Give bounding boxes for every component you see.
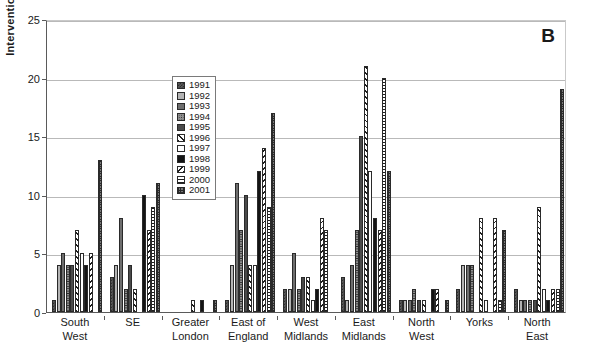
legend-swatch-icon — [177, 145, 185, 153]
bar-1997 — [311, 300, 315, 312]
bar-2001 — [98, 160, 102, 312]
bar-1993 — [523, 300, 527, 312]
bar-1999 — [378, 230, 382, 312]
x-axis-category-label: SE — [125, 316, 140, 330]
bar-1997 — [484, 300, 488, 312]
x-axis-category-label: North West — [408, 316, 435, 343]
bar-2001 — [560, 89, 564, 312]
bar-1996 — [75, 230, 79, 312]
bar-1996 — [133, 289, 137, 312]
bar-1992 — [288, 289, 292, 312]
bar-2001 — [271, 113, 275, 312]
bar-1994 — [528, 300, 532, 312]
y-axis-tick-label: 25 — [0, 14, 40, 26]
bar-1995 — [70, 265, 74, 312]
bar-1991 — [456, 289, 460, 312]
bar-group — [451, 21, 514, 312]
bar-2001 — [156, 183, 160, 312]
x-axis-category-labels: South WestSEGreater LondonEast of Englan… — [46, 316, 566, 354]
bar-1994 — [66, 265, 70, 312]
bar-1996 — [248, 265, 252, 312]
bar-1997 — [368, 171, 372, 312]
bar-1996 — [422, 300, 426, 312]
bar-1991 — [283, 289, 287, 312]
bar-1998 — [84, 265, 88, 312]
bar-1996 — [364, 66, 368, 312]
bar-1992 — [345, 300, 349, 312]
legend: 1991199219931994199519961997199819992000… — [172, 76, 216, 200]
x-axis-category-label: Greater London — [172, 316, 209, 343]
bar-1997 — [80, 253, 84, 312]
legend-item-1997: 1997 — [177, 143, 210, 154]
bar-group — [394, 21, 457, 312]
x-axis-tick-mark — [104, 316, 105, 320]
bar-chart-panel-b: Interventions B 0510152025 South WestSEG… — [0, 0, 592, 354]
legend-label: 1991 — [189, 80, 210, 91]
legend-label: 1993 — [189, 101, 210, 112]
bar-1996 — [191, 300, 195, 312]
bar-1998 — [315, 289, 319, 312]
bar-1993 — [350, 265, 354, 312]
bar-1999 — [147, 230, 151, 312]
bar-1999 — [493, 218, 497, 312]
y-axis-tick-mark — [42, 20, 46, 21]
x-axis-category-label: North East — [524, 316, 551, 343]
bar-1992 — [461, 265, 465, 312]
y-axis-tick-label: 20 — [0, 73, 40, 85]
bar-1995 — [128, 265, 132, 312]
x-axis-tick-mark — [335, 316, 336, 320]
bar-2000 — [382, 78, 386, 312]
bar-groups — [47, 21, 565, 312]
bar-1994 — [239, 230, 243, 312]
bar-1991 — [110, 277, 114, 312]
bar-1991 — [52, 300, 56, 312]
bar-1998 — [546, 300, 550, 312]
bar-group — [47, 21, 110, 312]
bar-1991 — [399, 300, 403, 312]
legend-item-1993: 1993 — [177, 101, 210, 112]
bar-1995 — [417, 300, 421, 312]
y-axis-tick-label: 10 — [0, 190, 40, 202]
x-axis-tick-mark — [277, 316, 278, 320]
y-axis-tick-mark — [42, 196, 46, 197]
bar-2000 — [498, 300, 502, 312]
bar-1992 — [230, 265, 234, 312]
y-axis-tick-label: 0 — [0, 307, 40, 319]
bar-1993 — [119, 218, 123, 312]
bar-1999 — [262, 148, 266, 312]
bar-1994 — [355, 230, 359, 312]
bar-1998 — [200, 300, 204, 312]
x-axis-category-label: East of England — [228, 316, 268, 343]
legend-swatch-icon — [177, 82, 185, 90]
bar-1992 — [403, 300, 407, 312]
legend-swatch-icon — [177, 187, 185, 195]
bar-group — [336, 21, 399, 312]
legend-label: 1995 — [189, 122, 210, 133]
bar-1992 — [519, 300, 523, 312]
legend-label: 1997 — [189, 143, 210, 154]
bar-2001 — [213, 300, 217, 312]
y-axis-tick-mark — [42, 137, 46, 138]
y-axis-tick-label: 5 — [0, 248, 40, 260]
bar-1995 — [359, 136, 363, 312]
bar-1994 — [297, 289, 301, 312]
legend-item-1991: 1991 — [177, 80, 210, 91]
y-axis-tick-mark — [42, 313, 46, 314]
x-axis-tick-mark — [219, 316, 220, 320]
legend-swatch-icon — [177, 124, 185, 132]
legend-swatch-icon — [177, 176, 185, 184]
panel-letter: B — [541, 25, 555, 47]
bar-group — [278, 21, 341, 312]
legend-item-1995: 1995 — [177, 122, 210, 133]
bar-1999 — [320, 218, 324, 312]
bar-1996 — [306, 277, 310, 312]
x-axis-tick-mark — [450, 316, 451, 320]
bar-1993 — [292, 253, 296, 312]
bar-group — [509, 21, 572, 312]
bar-2000 — [151, 207, 155, 312]
bar-1995 — [301, 277, 305, 312]
bar-1994 — [412, 289, 416, 312]
bar-group — [105, 21, 168, 312]
legend-item-2001: 2001 — [177, 185, 210, 196]
bar-1999 — [551, 289, 555, 312]
